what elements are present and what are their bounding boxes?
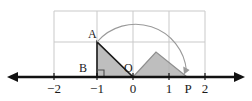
tick-label-p: P bbox=[184, 82, 191, 95]
point-label-o: O bbox=[124, 62, 133, 74]
point-label-a: A bbox=[88, 28, 97, 40]
tick-label-two: 2 bbox=[202, 82, 209, 95]
tick-label-zero: 0 bbox=[130, 82, 137, 95]
triangle-omp bbox=[133, 52, 187, 77]
axis-arrow-left bbox=[7, 72, 18, 82]
math-figure: −2 −1 0 1 P 2 A B O bbox=[0, 0, 252, 101]
tick-label-one: 1 bbox=[166, 82, 173, 95]
tick-label-neg2: −2 bbox=[47, 82, 61, 95]
point-label-b: B bbox=[79, 62, 87, 74]
axis-arrow-right bbox=[234, 72, 245, 82]
figure-canvas bbox=[0, 0, 252, 101]
tick-label-neg1: −1 bbox=[90, 82, 104, 95]
